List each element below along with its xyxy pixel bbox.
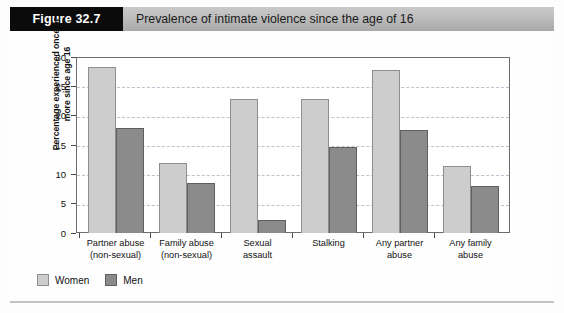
- bar-women[interactable]: [301, 99, 329, 233]
- legend-label-men: Men: [123, 275, 142, 286]
- chart-container: Percentage experienced once or more sinc…: [10, 31, 554, 303]
- bar-groups: [76, 57, 510, 233]
- bar-group: [222, 57, 293, 233]
- bar-group: [80, 57, 151, 233]
- y-axis-tick-label: 25: [55, 80, 71, 91]
- y-axis-tick-label: 5: [61, 198, 71, 209]
- y-axis-tick-label: 20: [55, 110, 71, 121]
- y-axis-ticks: 051015202530: [10, 57, 76, 233]
- y-axis-tick-label: 0: [61, 227, 71, 238]
- bar-men[interactable]: [471, 186, 499, 233]
- bar-women[interactable]: [372, 70, 400, 233]
- bar-group: [435, 57, 506, 233]
- x-axis-label: Partner abuse (non-sexual): [80, 238, 151, 261]
- bar-women[interactable]: [230, 99, 258, 233]
- x-axis-labels: Partner abuse (non-sexual)Family abuse (…: [76, 238, 510, 261]
- figure-caption: Prevalence of intimate violence since th…: [123, 7, 554, 31]
- bar-group: [364, 57, 435, 233]
- bar-women[interactable]: [88, 67, 116, 233]
- bar-group: [151, 57, 222, 233]
- legend-swatch-men-icon: [105, 274, 117, 286]
- legend-label-women: Women: [55, 275, 89, 286]
- legend-item-women: Women: [37, 274, 89, 286]
- x-axis-label: Stalking: [293, 238, 364, 261]
- y-axis-tick-label: 10: [55, 168, 71, 179]
- y-axis-tick-label: 15: [55, 139, 71, 150]
- bar-men[interactable]: [187, 183, 215, 233]
- legend-item-men: Men: [105, 274, 142, 286]
- x-axis-label: Any partner abuse: [364, 238, 435, 261]
- bar-men[interactable]: [258, 220, 286, 233]
- chart-legend: Women Men: [37, 274, 143, 286]
- bar-men[interactable]: [400, 130, 428, 233]
- x-axis-label: Sexual assault: [222, 238, 293, 261]
- bar-women[interactable]: [159, 163, 187, 233]
- figure-header: Figure 32.7 Prevalence of intimate viole…: [10, 7, 554, 31]
- figure-page: Figure 32.7 Prevalence of intimate viole…: [0, 0, 564, 313]
- legend-swatch-women-icon: [37, 274, 49, 286]
- x-axis-label: Family abuse (non-sexual): [151, 238, 222, 261]
- y-axis-tick-label: 30: [55, 51, 71, 62]
- bar-men[interactable]: [329, 147, 357, 233]
- bar-women[interactable]: [443, 166, 471, 233]
- bar-men[interactable]: [116, 128, 144, 233]
- bar-group: [293, 57, 364, 233]
- x-axis-label: Any family abuse: [435, 238, 506, 261]
